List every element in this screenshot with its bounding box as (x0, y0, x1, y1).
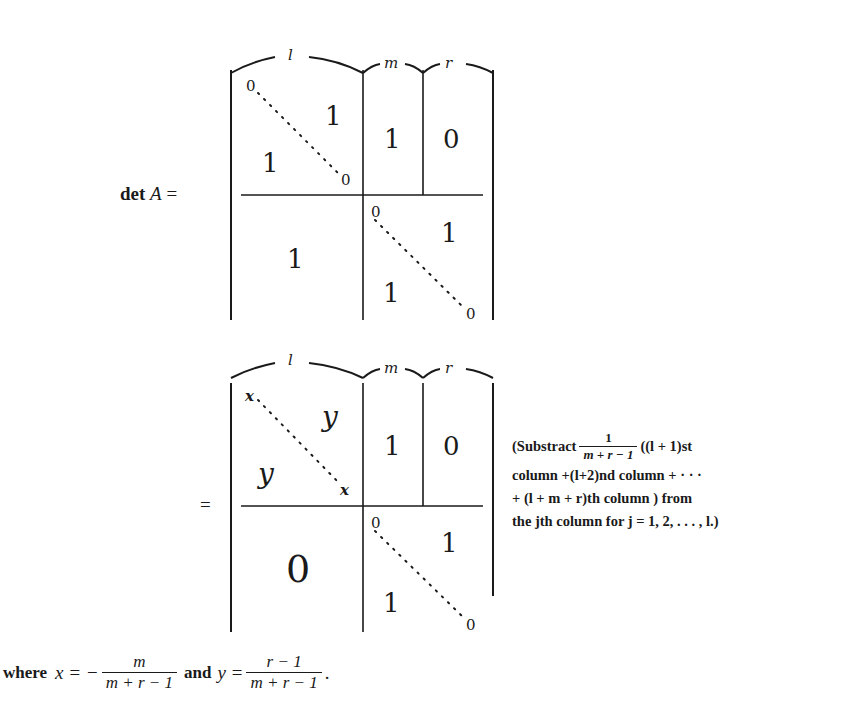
note-line-3: + (l + m + r)th column ) from (512, 490, 719, 506)
cell-tl-upper-2: y (322, 403, 338, 431)
y-definition: y = (217, 662, 243, 684)
cell-tl-lower-2: y (258, 460, 274, 488)
note-line-1: (Substract 1 m + r − 1 ((l + 1)st (512, 431, 719, 461)
where-label: where (3, 663, 47, 683)
brace-m-1b (405, 64, 423, 73)
brace-m-2b (405, 369, 423, 378)
and-label: and (184, 663, 211, 683)
note-fraction: 1 m + r − 1 (579, 430, 637, 463)
column-operation-note: (Substract 1 m + r − 1 ((l + 1)st column… (512, 431, 719, 529)
brace-r-1b (466, 64, 493, 73)
x-numerator: m (129, 652, 149, 672)
cell-br-diag-end: 0 (466, 307, 476, 322)
cell-tl-diag-end-2: x (340, 483, 349, 498)
cell-br-lower-2: 1 (383, 590, 400, 616)
brace-m-1 (363, 64, 380, 73)
brace-label-l: l (286, 47, 295, 63)
cell-tl-diag-end: 0 (341, 173, 351, 188)
variable-definitions: where x = − m m + r − 1 and y = r − 1 m … (3, 652, 330, 693)
y-fraction: r − 1 m + r − 1 (246, 652, 321, 693)
period: . (325, 662, 330, 684)
y-denominator: m + r − 1 (246, 672, 321, 693)
cell-br-lower: 1 (383, 280, 400, 306)
brace-r-2b (466, 369, 493, 378)
brace-label-l-2: l (286, 352, 295, 368)
brace-l-1 (231, 57, 275, 73)
brace-label-r-2: r (443, 360, 454, 376)
cell-bottom-left-2: 0 (286, 550, 310, 588)
note-line-4: the jth column for j = 1, 2, . . . , l.) (512, 513, 719, 529)
cell-br-upper: 1 (441, 220, 458, 246)
cell-br-diag-end-2: 0 (466, 618, 476, 633)
cell-br-diag-start: 0 (371, 205, 381, 220)
brace-label-m: m (382, 55, 400, 71)
brace-label-m-2: m (382, 360, 400, 376)
cell-br-diag-start-2: 0 (371, 516, 381, 531)
x-definition: x = − (55, 662, 99, 684)
cell-br-upper-2: 1 (441, 530, 458, 556)
equals-sign-2: = (200, 494, 211, 516)
x-fraction: m m + r − 1 (102, 652, 177, 693)
note-line-1-suffix: ((l + 1)st (640, 438, 692, 454)
cell-bottom-left: 1 (287, 246, 304, 272)
brace-r-1 (423, 64, 440, 73)
note-fraction-denominator: m + r − 1 (579, 446, 637, 463)
brace-r-2 (423, 369, 440, 378)
cell-top-middle-2: 1 (384, 433, 401, 459)
cell-tl-diag-start: 0 (246, 79, 256, 94)
brace-label-r: r (443, 55, 454, 71)
note-fraction-numerator: 1 (601, 430, 616, 446)
y-numerator: r − 1 (263, 652, 306, 672)
note-line-2: column +(l+2)nd column + · · · (512, 467, 719, 483)
matrix-grid-lines (0, 0, 845, 726)
brace-l-1b (309, 57, 363, 73)
x-denominator: m + r − 1 (102, 672, 177, 693)
cell-top-right-2: 0 (443, 433, 460, 459)
brace-l-2b (309, 363, 363, 378)
cell-tl-lower: 1 (262, 150, 279, 176)
cell-top-right: 0 (443, 126, 460, 152)
brace-m-2 (363, 369, 380, 378)
cell-tl-diag-start-2: x (245, 389, 254, 404)
cell-tl-upper: 1 (325, 103, 342, 129)
brace-l-2 (231, 363, 275, 378)
cell-top-middle: 1 (384, 126, 401, 152)
note-substract: (Substract (512, 438, 576, 454)
